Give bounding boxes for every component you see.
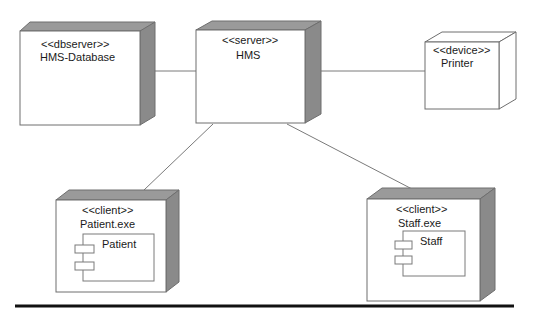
node-printer[interactable]: <<device>> Printer [425,32,516,109]
component-patient[interactable]: Patient [75,234,154,281]
node-name: Printer [441,57,474,69]
node-top-face [196,21,321,30]
node-side-face [499,32,516,109]
node-side-face [140,22,155,125]
node-hms[interactable]: <<server>> HMS [196,21,321,123]
component-port-icon [75,262,94,270]
node-stereotype: <<device>> [433,44,491,56]
node-stereotype: <<server>> [222,34,278,46]
node-stereotype: <<client>> [82,204,133,216]
component-name: Staff [420,235,443,247]
node-stereotype: <<dbserver>> [41,38,110,50]
component-name: Patient [102,238,136,250]
node-name: HMS [236,49,260,61]
node-patient-exe[interactable]: <<client>> Patient.exe Patient [56,190,179,292]
node-side-face [166,190,179,292]
node-hms-database[interactable]: <<dbserver>> HMS-Database [20,22,155,125]
node-side-face [305,21,321,123]
node-name: Staff.exe [398,217,441,229]
node-name: HMS-Database [40,51,115,63]
node-name: Patient.exe [80,218,135,230]
connection-hms-patient [144,124,213,190]
node-top-face [56,190,179,200]
node-stereotype: <<client>> [396,203,447,215]
component-staff[interactable]: Staff [395,231,465,276]
component-port-icon [395,241,412,249]
component-port-icon [395,256,412,264]
node-top-face [367,188,495,199]
component-port-icon [75,245,94,253]
node-top-face [20,22,155,31]
deployment-diagram: <<dbserver>> HMS-Database <<server>> HMS… [0,0,535,317]
node-staff-exe[interactable]: <<client>> Staff.exe Staff [367,188,495,301]
connection-hms-staff [287,124,412,189]
node-side-face [480,188,495,301]
